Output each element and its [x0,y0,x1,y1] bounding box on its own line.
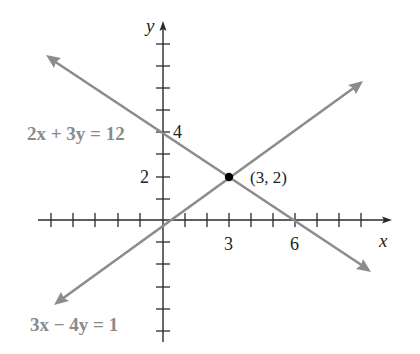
line2-arrow-lower-icon [54,292,69,305]
tick-label-y-4: 4 [173,122,182,142]
tick-label-x-3: 3 [224,234,233,254]
line2-arrow-upper-icon [348,81,363,94]
equation-label-line2: 3x − 4y = 1 [30,314,118,335]
line1-arrow-upper-icon [46,55,61,68]
tick-label-y-2: 2 [140,167,149,187]
line1-arrow-lower-icon [356,259,371,272]
intersection-label: (3, 2) [250,168,287,187]
intersection-point [225,173,233,181]
tick-label-x-6: 6 [290,234,299,254]
coordinate-plane: y x 4 2 3 6 (3, 2) 2x + 3y = 12 3x − 4y … [0,0,420,354]
y-axis [156,21,170,342]
x-axis-label: x [378,230,388,251]
line-3x-minus-4y-eq-1 [54,81,363,305]
y-axis-label: y [144,15,155,36]
x-axis [38,213,392,227]
line-2x-plus-3y-eq-12 [46,55,371,272]
equation-label-line1: 2x + 3y = 12 [27,123,125,144]
